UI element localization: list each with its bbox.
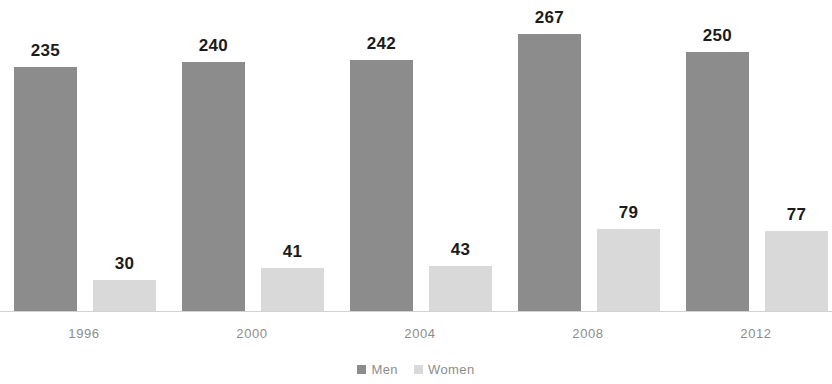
legend-swatch-icon [414, 365, 423, 374]
bar-value-label: 41 [251, 242, 334, 262]
bar-value-label: 240 [172, 36, 255, 56]
bar-rect-men [14, 67, 77, 311]
x-axis-line [0, 311, 832, 312]
bar-rect-women [93, 280, 156, 311]
bar-rect-women [765, 231, 828, 311]
bar-group: 267 79 [504, 0, 672, 311]
bar-value-label: 267 [508, 8, 591, 28]
bar-rect-women [597, 229, 660, 311]
legend-item-men[interactable]: Men [357, 362, 398, 377]
bar-value-label: 43 [419, 240, 502, 260]
bar-value-label: 30 [83, 254, 166, 274]
legend-item-women[interactable]: Women [414, 362, 475, 377]
legend-label: Men [371, 362, 398, 377]
bar-value-label: 235 [4, 41, 87, 61]
bar-value-label: 79 [587, 203, 670, 223]
bar-rect-men [686, 52, 749, 311]
bar-rect-men [350, 60, 413, 311]
x-axis-tick-label: 2000 [168, 326, 336, 341]
x-axis-tick-label: 1996 [0, 326, 168, 341]
bar-rect-men [518, 34, 581, 311]
bar-group: 240 41 [168, 0, 336, 311]
x-axis-tick-label: 2012 [672, 326, 832, 341]
bar-value-label: 77 [755, 205, 832, 225]
bar-group: 250 77 [672, 0, 832, 311]
bar-rect-women [429, 266, 492, 311]
x-axis-tick-label: 2008 [504, 326, 672, 341]
x-axis-tick-label: 2004 [336, 326, 504, 341]
legend-label: Women [428, 362, 475, 377]
bar-value-label: 242 [340, 34, 423, 54]
bar-rect-women [261, 268, 324, 311]
bar-group: 242 43 [336, 0, 504, 311]
bar-chart: 235 30 240 41 242 [0, 0, 832, 384]
legend-swatch-icon [357, 365, 366, 374]
bar-value-label: 250 [676, 26, 759, 46]
bar-group: 235 30 [0, 0, 168, 311]
plot-area: 235 30 240 41 242 [0, 0, 832, 311]
chart-legend: Men Women [0, 362, 832, 377]
bar-rect-men [182, 62, 245, 311]
